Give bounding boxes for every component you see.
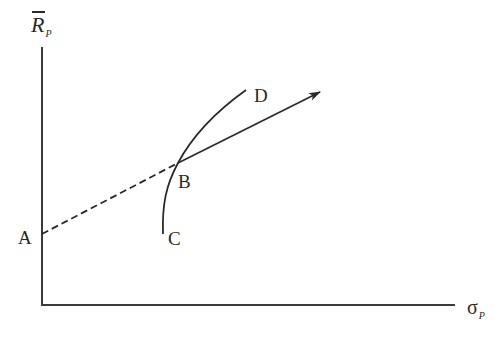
y-axis-subscript: P: [45, 28, 51, 39]
diagram-canvas: [0, 0, 501, 337]
point-label-d: D: [254, 86, 268, 105]
x-axis-label: σP: [467, 297, 484, 317]
efficient-frontier-curve-c-d: [163, 90, 246, 234]
y-axis-label: RP: [31, 14, 51, 36]
x-axis-symbol: σ: [467, 296, 478, 318]
point-label-b: B: [178, 172, 191, 191]
x-axis-subscript: P: [479, 310, 485, 321]
point-label-c: C: [168, 229, 181, 248]
point-label-a: A: [18, 228, 32, 247]
dashed-line-a-to-b: [42, 163, 178, 234]
arrow-line-from-b: [178, 92, 320, 163]
y-axis-symbol: R: [31, 14, 44, 36]
